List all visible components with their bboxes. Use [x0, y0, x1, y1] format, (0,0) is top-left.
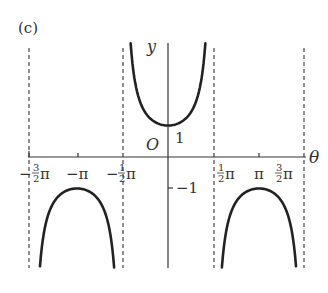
- tick-label-neg-half-pi: − 1 2 π: [106, 162, 136, 184]
- y-axis-label: y: [146, 37, 157, 56]
- svg-text:3: 3: [33, 162, 39, 173]
- tick-label-pi: π: [254, 165, 264, 183]
- svg-text:π: π: [126, 165, 136, 183]
- panel-label: (c): [18, 19, 38, 37]
- y-one-label: 1: [175, 129, 185, 147]
- svg-text:π: π: [40, 165, 50, 183]
- svg-text:1: 1: [218, 162, 224, 173]
- curve-branch-pi: [222, 189, 296, 268]
- svg-text:2: 2: [218, 173, 224, 184]
- curve-branch-neg-pi: [40, 189, 114, 268]
- svg-text:1: 1: [119, 162, 125, 173]
- tick-label-half-pi: 1 2 π: [217, 162, 235, 184]
- tick-label-neg-three-half-pi: − 3 2 π: [19, 162, 50, 184]
- svg-text:2: 2: [119, 173, 125, 184]
- theta-axis-label: θ: [309, 147, 319, 167]
- svg-text:2: 2: [276, 173, 282, 184]
- axes: [28, 43, 306, 268]
- tick-label-neg-pi: −π: [66, 165, 89, 183]
- svg-text:π: π: [225, 165, 235, 183]
- svg-text:π: π: [283, 165, 293, 183]
- origin-label: O: [146, 135, 159, 154]
- secant-graph: (c) y θ O 1 −1 − 3 2 π −π − 1 2 π 1 2 π …: [0, 0, 328, 293]
- y-neg-one-label: −1: [176, 179, 198, 197]
- svg-text:2: 2: [33, 173, 39, 184]
- asymptotes: [29, 48, 304, 268]
- svg-text:−: −: [19, 165, 32, 183]
- tick-label-three-half-pi: 3 2 π: [275, 162, 293, 184]
- svg-text:−: −: [106, 165, 119, 183]
- svg-text:3: 3: [276, 162, 282, 173]
